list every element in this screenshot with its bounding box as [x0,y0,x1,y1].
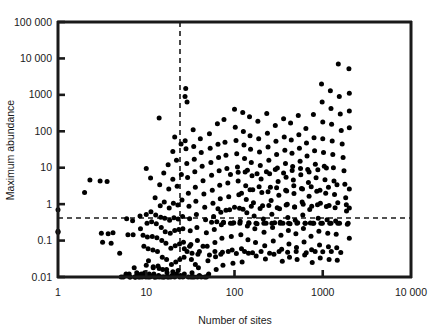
data-point [145,235,150,240]
data-point [289,137,294,142]
data-point [191,144,196,149]
data-point [320,249,325,254]
data-point [335,200,340,205]
data-point [190,251,195,256]
data-point [328,88,333,93]
data-point [153,213,158,218]
data-point [266,158,271,163]
data-point [179,141,184,146]
data-point [259,177,264,182]
data-point [286,228,291,233]
data-point [311,112,316,117]
data-point [228,172,233,177]
data-point [320,119,325,124]
data-point [305,153,310,158]
data-point [276,193,281,198]
data-point [193,262,198,267]
data-point [337,221,342,226]
data-point [224,166,229,171]
scatter-plot-figure: 0.010.1110100100010 000100 000 110100100… [0,0,433,332]
data-point [339,128,344,133]
data-point [336,62,341,67]
data-point [163,229,168,234]
data-point [241,129,246,134]
data-point [235,164,240,169]
data-point [226,249,231,254]
data-point [334,232,339,237]
data-point [316,216,321,221]
data-point [170,177,175,182]
data-point [186,191,191,196]
data-point [209,173,214,178]
data-point [230,261,235,266]
data-point [161,170,166,175]
data-point [248,187,253,192]
data-point [151,264,156,269]
data-point [164,267,169,272]
data-point [168,231,173,236]
data-point [201,244,206,249]
y-axis-title: Maximum abundance [4,100,16,201]
data-point [154,235,159,240]
data-point [317,242,322,247]
data-point [294,249,299,254]
data-point [238,232,243,237]
data-point [273,123,278,128]
data-point [341,155,346,160]
data-point [183,94,188,99]
data-point [241,207,246,212]
data-point [249,160,254,165]
data-point [342,182,347,187]
data-point [248,133,253,138]
data-point [183,86,188,91]
data-point [117,251,122,256]
data-point [298,159,303,164]
data-point [239,191,244,196]
data-point [258,206,263,211]
data-point [304,250,309,255]
data-point [183,138,188,143]
data-point [130,218,135,223]
data-point [164,257,169,262]
data-point [255,171,260,176]
data-point [233,125,238,130]
data-point [141,244,146,249]
data-point [314,175,319,180]
data-point [214,219,219,224]
data-point [209,220,214,225]
data-point [320,99,325,104]
data-point [331,165,336,170]
data-point [162,199,167,204]
data-point [293,231,298,236]
data-point [212,240,217,245]
y-axis-tick-label: 10 [40,161,52,173]
data-point [208,146,213,151]
data-point [241,143,246,148]
data-point [176,217,181,222]
data-point [301,226,306,231]
data-point [275,205,280,210]
data-point [347,109,352,114]
data-point [199,150,204,155]
data-point [274,185,279,190]
data-point [162,216,167,221]
data-point [169,262,174,267]
data-point [274,152,279,157]
data-point [285,250,290,255]
data-point [242,249,247,254]
plot-background [58,22,411,277]
data-point [300,213,305,218]
data-point [87,178,92,183]
data-point [292,204,297,209]
data-point [163,241,168,246]
data-point [203,217,208,222]
data-point [157,116,162,121]
data-point [307,194,312,199]
data-point [204,230,209,235]
x-axis-tick-label: 1000 [311,286,335,298]
data-point [237,221,242,226]
data-point [183,146,188,151]
data-point [157,182,162,187]
data-point [106,231,111,236]
data-point [193,185,198,190]
